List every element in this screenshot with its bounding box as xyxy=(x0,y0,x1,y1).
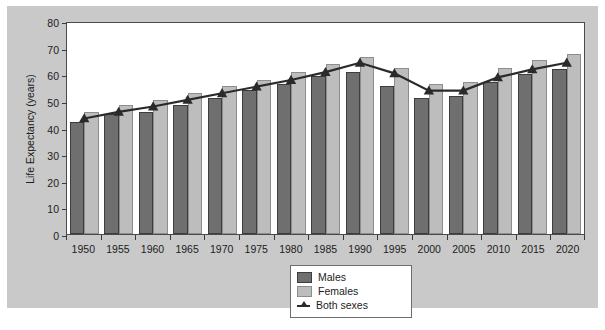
bar-females xyxy=(498,68,512,234)
x-axis-tick-label: 1980 xyxy=(274,242,309,258)
x-axis-tick-label: 1970 xyxy=(204,242,239,258)
x-axis-tick-label: 1955 xyxy=(101,242,136,258)
x-axis-tick-label: 2005 xyxy=(447,242,482,258)
x-axis-tick-label: 1960 xyxy=(135,242,170,258)
x-axis-tick-mark xyxy=(170,235,171,240)
bar-females xyxy=(257,80,271,234)
x-axis-tick-mark xyxy=(343,235,344,240)
bar-group xyxy=(343,23,377,234)
bar-females xyxy=(84,112,98,234)
legend-item[interactable]: Males xyxy=(297,271,405,284)
bar-females xyxy=(429,84,443,234)
x-axis-tick-mark xyxy=(516,235,517,240)
figure-caption xyxy=(14,318,574,330)
y-axis-tick-label: 50 xyxy=(47,98,59,109)
bar-males xyxy=(518,74,532,234)
legend-item[interactable]: Females xyxy=(297,285,405,298)
legend-item-label: Females xyxy=(318,286,358,297)
bar-females xyxy=(532,60,546,234)
x-axis-tick-mark xyxy=(204,235,205,240)
legend-line-marker-icon xyxy=(297,300,310,311)
plot-area: 01020304050607080 xyxy=(66,22,585,235)
x-axis-tick-mark xyxy=(308,235,309,240)
bar-group xyxy=(67,23,101,234)
legend-swatch-icon xyxy=(297,286,312,297)
bar-males xyxy=(277,84,291,234)
x-axis-tick-label: 1995 xyxy=(377,242,412,258)
bar-males xyxy=(139,112,153,234)
bar-group xyxy=(239,23,273,234)
bar-group xyxy=(412,23,446,234)
bar-females xyxy=(291,72,305,234)
x-axis-tick-mark xyxy=(101,235,102,240)
x-axis-tick-label: 2000 xyxy=(412,242,447,258)
bar-females xyxy=(360,57,374,234)
x-axis-tick-label: 1975 xyxy=(239,242,274,258)
bar-males xyxy=(552,69,566,234)
legend-item[interactable]: Both sexes xyxy=(297,299,405,312)
bar-males xyxy=(346,72,360,234)
bar-males xyxy=(449,96,463,234)
plot-inner: 01020304050607080 xyxy=(67,23,584,234)
bar-females xyxy=(188,93,202,234)
bar-group xyxy=(274,23,308,234)
x-axis-tick-label: 1965 xyxy=(170,242,205,258)
bar-females xyxy=(222,86,236,234)
bar-females xyxy=(153,100,167,234)
bar-males xyxy=(311,76,325,234)
bar-group xyxy=(308,23,342,234)
x-axis-ticks xyxy=(66,235,585,241)
x-axis-tick-mark xyxy=(584,235,585,240)
x-axis-tick-label: 2020 xyxy=(550,242,585,258)
x-axis-tick-label: 1990 xyxy=(343,242,378,258)
bar-males xyxy=(208,98,222,234)
legend-swatch-icon xyxy=(297,272,312,283)
bar-group xyxy=(101,23,135,234)
x-axis-tick-mark xyxy=(377,235,378,240)
y-axis-title: Life Expectancy (years) xyxy=(21,22,39,235)
x-axis-tick-mark xyxy=(135,235,136,240)
legend-item-label: Both sexes xyxy=(316,300,368,311)
bar-males xyxy=(173,105,187,234)
y-axis-tick-label: 60 xyxy=(47,71,59,82)
bar-males xyxy=(380,86,394,234)
x-axis-tick-label: 2010 xyxy=(481,242,516,258)
legend-item-label: Males xyxy=(318,272,346,283)
bar-females xyxy=(567,54,581,234)
x-axis-labels: 1950195519601965197019751980198519901995… xyxy=(66,242,585,258)
chart-legend: MalesFemalesBoth sexes xyxy=(290,265,412,318)
bar-group xyxy=(136,23,170,234)
x-axis-tick-label: 2015 xyxy=(516,242,551,258)
bar-males xyxy=(104,114,118,234)
y-axis-tick-label: 80 xyxy=(47,18,59,29)
bars-layer xyxy=(67,23,584,234)
y-axis-tick-label: 20 xyxy=(47,178,59,189)
x-axis-tick-label: 1985 xyxy=(308,242,343,258)
x-axis-tick-mark xyxy=(66,235,67,240)
y-axis-tick-label: 0 xyxy=(53,231,59,242)
chart-panel: Life Expectancy (years) 0102030405060708… xyxy=(7,6,598,308)
bar-males xyxy=(70,122,84,234)
y-axis-tick-label: 40 xyxy=(47,124,59,135)
y-axis-tick-label: 30 xyxy=(47,151,59,162)
x-axis-tick-mark xyxy=(481,235,482,240)
bar-males xyxy=(414,98,428,234)
bar-females xyxy=(326,64,340,234)
x-axis-tick-mark xyxy=(412,235,413,240)
bar-group xyxy=(170,23,204,234)
bar-group xyxy=(446,23,480,234)
bar-group xyxy=(481,23,515,234)
x-axis-tick-label: 1950 xyxy=(66,242,101,258)
bar-females xyxy=(463,82,477,234)
bar-males xyxy=(483,82,497,234)
y-axis-tick-label: 70 xyxy=(47,44,59,55)
bar-females xyxy=(119,105,133,234)
x-axis-tick-mark xyxy=(274,235,275,240)
x-axis-tick-mark xyxy=(239,235,240,240)
x-axis-tick-mark xyxy=(550,235,551,240)
y-axis-title-text: Life Expectancy (years) xyxy=(24,74,36,184)
y-axis-tick-label: 10 xyxy=(47,204,59,215)
bar-females xyxy=(394,68,408,234)
bar-group xyxy=(377,23,411,234)
bar-group xyxy=(515,23,549,234)
